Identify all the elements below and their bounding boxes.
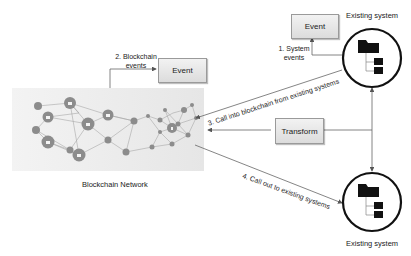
existing-system-bottom	[343, 173, 401, 231]
existing-system-bottom-label: Existing system	[346, 239, 398, 248]
blockchain-network-image	[12, 88, 204, 171]
edge-blockchain-events	[110, 69, 156, 88]
event-box-label: Event	[172, 66, 192, 75]
transform-label: Transform	[281, 127, 317, 136]
existing-system-top	[343, 29, 401, 87]
event-box-system: Event	[291, 14, 339, 39]
system-events-label: 1. System events	[276, 44, 312, 62]
existing-system-top-label: Existing system	[346, 11, 398, 20]
event-box-blockchain: Event	[158, 58, 207, 83]
blockchain-network-label: Blockchain Network	[82, 180, 148, 189]
edge-call-into-blockchain	[196, 70, 342, 118]
diagram-canvas	[0, 0, 411, 256]
edge-call-out	[195, 145, 342, 203]
edge-system-events	[312, 38, 343, 55]
event-box-label: Event	[305, 22, 325, 31]
transform-box: Transform	[275, 118, 324, 144]
blockchain-events-label: 2. Blockchain events	[112, 52, 160, 70]
